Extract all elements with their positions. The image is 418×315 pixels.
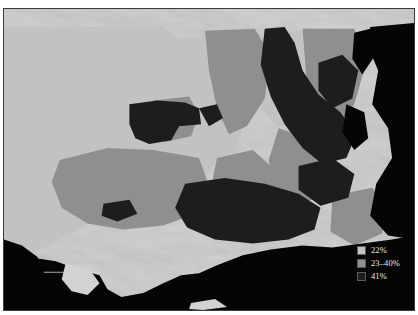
legend-row-low: 22% [357,244,408,256]
legend-swatch-low [357,246,366,255]
legend-swatch-mid [357,259,366,268]
top-edge-mark [196,0,205,5]
legend-swatch-high [357,272,366,281]
map-vector [4,9,414,310]
legend-label-high: 41% [371,272,387,281]
legend-label-low: 22% [371,246,387,255]
legend-row-mid: 23–40% [357,257,408,269]
map-screenshot: 22% 23–40% 41% [0,0,418,315]
choropleth-map-canvas [4,9,414,310]
map-frame: 22% 23–40% 41% [3,8,415,311]
map-legend: 22% 23–40% 41% [354,241,410,286]
legend-row-high: 41% [357,270,408,282]
legend-label-mid: 23–40% [371,259,400,268]
